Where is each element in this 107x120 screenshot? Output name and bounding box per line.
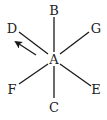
point-label-d: D [7,21,17,36]
point-label-f: F [7,82,16,97]
diagram-canvas: BGDFCE A [0,0,107,120]
point-label-b: B [49,3,59,18]
point-label-c: C [49,100,59,115]
ray-diagram: BGDFCE A [0,0,107,120]
ray-line-f [19,64,48,84]
ray-line-e [60,64,91,86]
direction-arrow [16,42,36,55]
ray-line-d [19,32,48,54]
point-label-e: E [91,82,101,97]
point-label-g: G [91,21,101,36]
ray-line-g [60,32,89,54]
point-label-a: A [48,52,59,67]
